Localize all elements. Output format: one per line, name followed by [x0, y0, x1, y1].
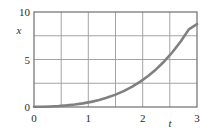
y-tick-label-0: 0 [25, 101, 31, 113]
x-tick-label-2: 2 [140, 112, 146, 124]
y-tick-label-5: 5 [25, 54, 31, 66]
x-tick-label-3: 3 [194, 112, 200, 124]
chart-figure: 10 5 0 0 1 2 3 x t [0, 0, 212, 137]
y-axis-title: x [16, 24, 22, 36]
x-tick-label-1: 1 [86, 112, 92, 124]
y-tick-label-10: 10 [19, 6, 31, 18]
plot-canvas: 10 5 0 0 1 2 3 x t [0, 0, 212, 137]
x-tick-label-0: 0 [31, 112, 37, 124]
